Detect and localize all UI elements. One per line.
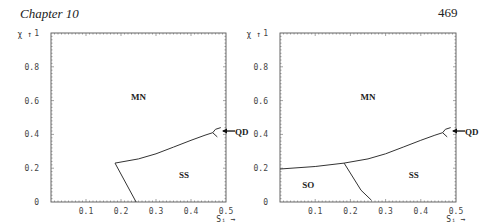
arrow-head-icon	[452, 129, 457, 134]
y-axis-label: χ ↑	[18, 30, 32, 39]
plot-frame	[280, 33, 456, 202]
phase-boundary	[344, 133, 443, 163]
x-tick-label: 0.3	[149, 207, 164, 216]
region-label-mn: MN	[361, 92, 376, 102]
x-tick-label: 0.3	[378, 207, 393, 216]
y-tick-label: 0.4	[25, 130, 40, 139]
x-tick-label: 0.4	[184, 207, 199, 216]
arrow-head-icon	[222, 129, 227, 134]
x-axis-label: Sᵢ →	[216, 215, 235, 223]
y-tick-label: 0	[34, 198, 39, 207]
x-tick-label: 0.2	[343, 207, 358, 216]
y-axis-label: χ ↑	[247, 30, 261, 39]
y-tick-label: 0.6	[25, 97, 40, 106]
phase-boundary	[280, 163, 344, 169]
x-tick-label: 0.1	[79, 207, 94, 216]
y-tick-label: 1	[263, 29, 268, 38]
phase-diagrams: 0.10.20.30.40.500.20.40.60.8χ ↑1Sᵢ →MNSS…	[0, 0, 500, 223]
x-tick-label: 0.4	[414, 207, 429, 216]
phase-boundary	[115, 133, 213, 163]
y-tick-label: 1	[34, 29, 39, 38]
y-tick-label: 0.4	[254, 130, 269, 139]
x-axis-label: Sᵢ →	[446, 215, 465, 223]
region-label-so: SO	[302, 180, 314, 190]
region-label-qd: QD	[465, 127, 479, 137]
phase-boundary	[213, 128, 221, 133]
y-tick-label: 0.8	[25, 63, 40, 72]
plot-frame	[51, 33, 226, 202]
phase-boundary	[115, 163, 136, 202]
phase-boundary	[213, 133, 218, 137]
region-label-ss: SS	[409, 170, 419, 180]
phase-boundary	[443, 133, 448, 137]
x-tick-label: 0.2	[114, 207, 129, 216]
phase-boundary	[443, 128, 451, 133]
y-tick-label: 0.2	[25, 164, 40, 173]
phase-boundary	[344, 163, 371, 200]
y-tick-label: 0	[263, 198, 268, 207]
phase-diagram-1: 0.10.20.30.40.500.20.40.60.8χ ↑1Sᵢ →MNSS…	[18, 29, 249, 223]
region-label-ss: SS	[179, 170, 189, 180]
y-tick-label: 0.8	[254, 63, 269, 72]
y-tick-label: 0.2	[254, 164, 269, 173]
y-tick-label: 0.6	[254, 97, 269, 106]
phase-diagram-2: 0.10.20.30.40.500.20.40.60.8χ ↑1Sᵢ →MNSO…	[247, 29, 479, 223]
region-label-qd: QD	[235, 127, 249, 137]
region-label-mn: MN	[131, 92, 146, 102]
x-tick-label: 0.1	[308, 207, 323, 216]
